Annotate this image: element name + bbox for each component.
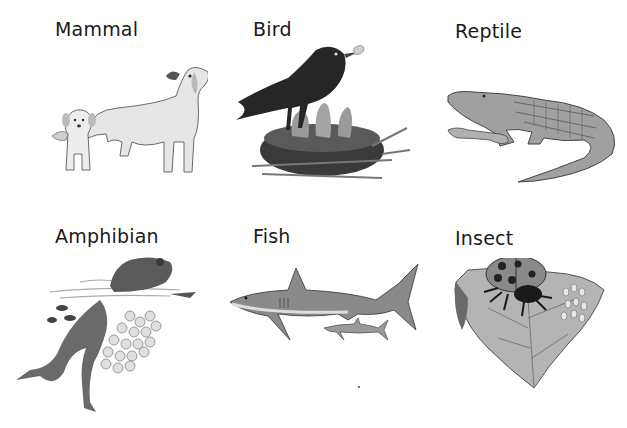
label-fish: Fish: [253, 225, 291, 247]
label-mammal: Mammal: [55, 18, 138, 40]
dog-illustration-icon: [48, 38, 208, 178]
label-amphibian: Amphibian: [55, 225, 159, 247]
crocodile-illustration-icon: [444, 86, 624, 186]
label-bird: Bird: [253, 18, 292, 40]
bird-nest-illustration-icon: [232, 38, 412, 188]
stray-dot: [358, 386, 360, 388]
label-insect: Insect: [455, 227, 513, 249]
frog-illustration-icon: [10, 252, 200, 417]
ladybird-leaf-illustration-icon: [448, 258, 618, 393]
label-reptile: Reptile: [455, 20, 522, 42]
shark-illustration-icon: [228, 262, 423, 352]
